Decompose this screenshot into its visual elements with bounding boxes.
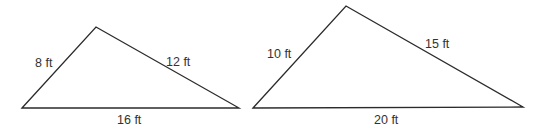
triangle-large-left-side-label: 10 ft xyxy=(267,47,292,61)
triangle-small: 8 ft 12 ft 16 ft xyxy=(22,27,239,127)
triangle-small-base-label: 16 ft xyxy=(117,113,142,127)
triangle-large: 10 ft 15 ft 20 ft xyxy=(253,6,523,127)
triangle-small-outline xyxy=(22,27,239,108)
similar-triangles-diagram: 8 ft 12 ft 16 ft 10 ft 15 ft 20 ft xyxy=(0,0,546,133)
triangle-large-base-label: 20 ft xyxy=(374,113,399,127)
triangle-large-right-side-label: 15 ft xyxy=(425,37,450,51)
triangle-small-right-side-label: 12 ft xyxy=(166,55,191,69)
triangle-small-left-side-label: 8 ft xyxy=(35,56,53,70)
triangle-large-outline xyxy=(253,6,523,108)
